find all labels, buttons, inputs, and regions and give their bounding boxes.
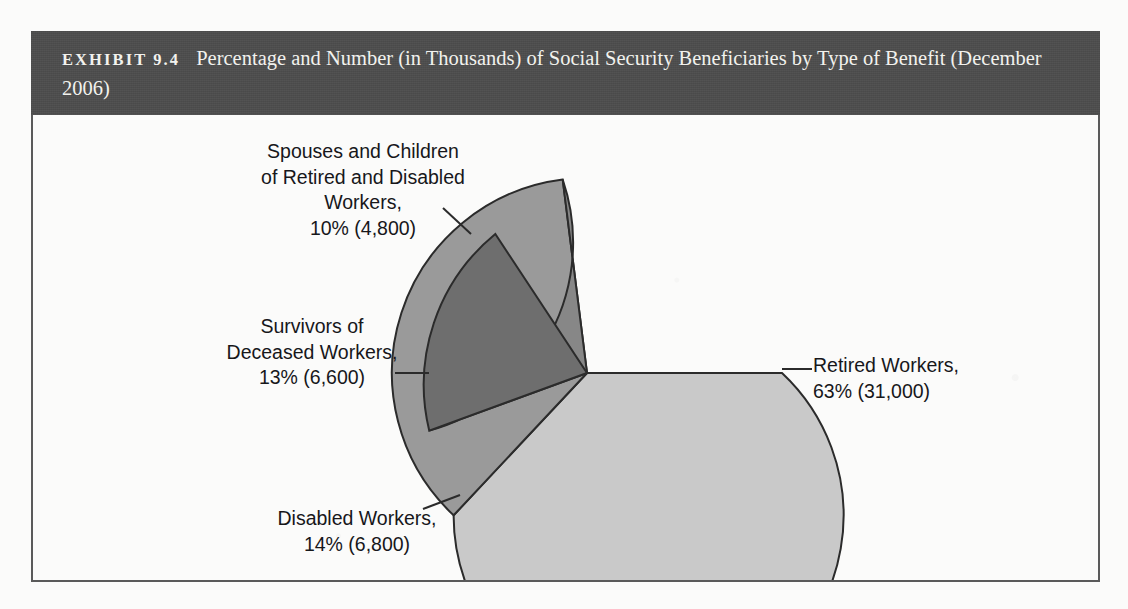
pie-label-disabled-workers: Disabled Workers, 14% (6,800) bbox=[226, 506, 488, 557]
exhibit-title: Percentage and Number (in Thousands) of … bbox=[62, 47, 1042, 99]
pie-label-retired-workers: Retired Workers, 63% (31,000) bbox=[813, 353, 1063, 404]
pie-label-survivors: Survivors of Deceased Workers, 13% (6,60… bbox=[183, 314, 441, 391]
page-background: EXHIBIT 9.4Percentage and Number (in Tho… bbox=[0, 0, 1128, 609]
pie-chart-area: Spouses and Children of Retired and Disa… bbox=[33, 117, 1098, 580]
exhibit-header-bar: EXHIBIT 9.4Percentage and Number (in Tho… bbox=[31, 31, 1100, 115]
exhibit-header-text: EXHIBIT 9.4Percentage and Number (in Tho… bbox=[62, 44, 1078, 103]
exhibit-number-label: EXHIBIT 9.4 bbox=[62, 50, 180, 69]
pie-label-spouses-and-children: Spouses and Children of Retired and Disa… bbox=[228, 139, 498, 241]
